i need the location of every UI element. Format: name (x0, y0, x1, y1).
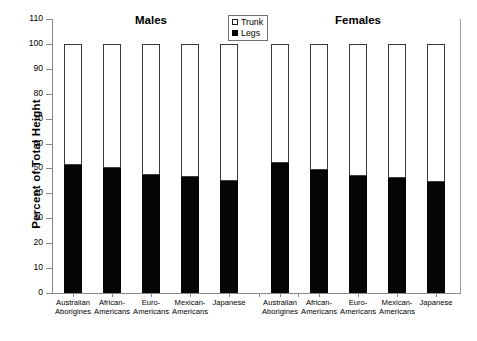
bar-males-2 (142, 19, 160, 293)
bar-females-3 (388, 19, 406, 293)
y-tick-label-80: 80 (13, 88, 43, 99)
legend-swatch-trunk-icon (232, 19, 238, 25)
bar-males-4 (220, 19, 238, 293)
plot-area: 1101009080706050403020100 (52, 19, 461, 293)
bar-males-0 (64, 19, 82, 293)
bar-segment-legs (349, 176, 367, 293)
chart-root: Percent of Total Height 1101009080706050… (0, 0, 477, 341)
legend-label-legs: Legs (241, 28, 260, 39)
bar-females-1 (310, 19, 328, 293)
y-tick-110: 110 (46, 19, 52, 20)
y-tick-label-20: 20 (13, 237, 43, 248)
plot-right-border (460, 19, 461, 293)
bar-segment-trunk (427, 44, 445, 182)
bar-segment-trunk (181, 44, 199, 177)
bar-segment-trunk (64, 44, 82, 165)
bar-segment-legs (142, 175, 160, 293)
x-tick-gap-1 (298, 293, 299, 297)
bar-females-0 (271, 19, 289, 293)
bar-segment-trunk (142, 44, 160, 175)
x-label-line: Americans (367, 307, 427, 316)
y-tick-20: 20 (46, 243, 52, 244)
x-tick-males-2 (151, 293, 152, 297)
bar-segment-legs (310, 170, 328, 293)
y-tick-label-90: 90 (13, 63, 43, 74)
x-tick-females-2 (358, 293, 359, 297)
x-label-females-4: Japanese (406, 298, 466, 307)
y-tick-label-110: 110 (13, 13, 43, 24)
bar-segment-trunk (388, 44, 406, 178)
y-tick-label-70: 70 (13, 113, 43, 124)
x-tick-males-1 (112, 293, 113, 297)
x-label-line: Japanese (406, 298, 466, 307)
legend-item-legs: Legs (232, 28, 263, 39)
y-tick-10: 10 (46, 268, 52, 269)
legend-label-trunk: Trunk (241, 17, 263, 28)
y-tick-label-30: 30 (13, 212, 43, 223)
bar-segment-legs (271, 163, 289, 293)
bar-segment-legs (388, 178, 406, 293)
x-axis-line (52, 293, 461, 294)
legend-swatch-legs-icon (232, 30, 238, 36)
x-tick-females-3 (397, 293, 398, 297)
y-tick-label-0: 0 (13, 287, 43, 298)
y-tick-label-60: 60 (13, 138, 43, 149)
y-tick-70: 70 (46, 119, 52, 120)
y-tick-80: 80 (46, 94, 52, 95)
bar-females-4 (427, 19, 445, 293)
group-title-females: Females (298, 14, 418, 26)
y-tick-60: 60 (46, 144, 52, 145)
x-tick-females-0 (280, 293, 281, 297)
x-label-line: Americans (160, 307, 220, 316)
x-tick-gap-0 (259, 293, 260, 297)
bar-segment-trunk (349, 44, 367, 176)
y-tick-label-40: 40 (13, 187, 43, 198)
bar-segment-trunk (271, 44, 289, 163)
bar-males-1 (103, 19, 121, 293)
bar-males-3 (181, 19, 199, 293)
x-tick-females-4 (436, 293, 437, 297)
bar-segment-legs (220, 181, 238, 293)
bar-segment-trunk (220, 44, 238, 181)
y-tick-100: 100 (46, 44, 52, 45)
bar-segment-trunk (103, 44, 121, 169)
bar-segment-legs (427, 182, 445, 293)
bar-segment-legs (64, 165, 82, 293)
y-tick-40: 40 (46, 193, 52, 194)
y-tick-50: 50 (46, 168, 52, 169)
y-tick-90: 90 (46, 69, 52, 70)
chart-legend: Trunk Legs (228, 15, 268, 41)
x-tick-males-3 (190, 293, 191, 297)
y-tick-label-100: 100 (13, 38, 43, 49)
bar-females-2 (349, 19, 367, 293)
group-title-males: Males (91, 14, 211, 26)
x-tick-females-1 (319, 293, 320, 297)
bar-segment-legs (181, 177, 199, 293)
bar-segment-legs (103, 168, 121, 293)
bar-segment-trunk (310, 44, 328, 170)
y-tick-30: 30 (46, 218, 52, 219)
y-tick-label-50: 50 (13, 162, 43, 173)
y-axis-line (52, 19, 53, 293)
legend-item-trunk: Trunk (232, 17, 263, 28)
y-tick-label-10: 10 (13, 262, 43, 273)
x-tick-males-0 (73, 293, 74, 297)
y-tick-0: 0 (46, 293, 52, 294)
x-tick-males-4 (229, 293, 230, 297)
